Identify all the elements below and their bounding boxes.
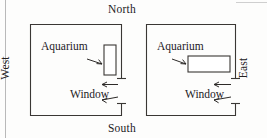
- left-room: [30, 24, 126, 116]
- left-room-aquarium-rect: [104, 45, 116, 75]
- rooms-drawing: [0, 0, 267, 138]
- left-room-aquarium-label: Aquarium: [41, 40, 88, 52]
- right-room-aquarium-rect: [188, 56, 230, 72]
- right-room: [146, 24, 240, 116]
- left-aquarium-pointer-arrow-head-icon: [97, 60, 103, 64]
- left-room-window-label: Window: [70, 88, 109, 100]
- right-room-aquarium-label: Aquarium: [157, 40, 204, 52]
- right-room-window-label: Window: [185, 88, 224, 100]
- room-orientation-figure: North South West East: [0, 0, 267, 138]
